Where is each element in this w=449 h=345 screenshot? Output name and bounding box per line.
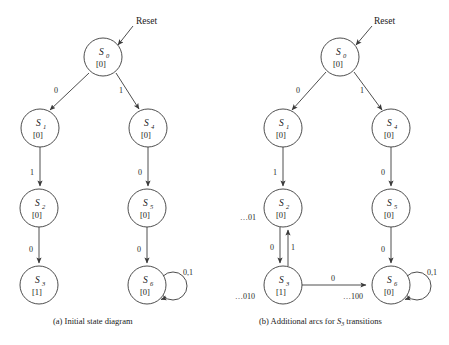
state-name-b-S2: S <box>279 198 284 208</box>
self-loop-label-a-S6: 0,1 <box>183 268 193 277</box>
transition-b-S4-S5: 0 <box>381 147 391 186</box>
transition-a-S0-S4: 1 <box>116 73 139 109</box>
caption-panel-b-prefix: (b) Additional arcs for <box>259 316 337 326</box>
transition-label-a-S5-S6: 0 <box>137 245 141 254</box>
sequence-label-b-S3: …010 <box>235 292 255 301</box>
state-node-a-S2[interactable]: S 2 [0] <box>20 189 58 227</box>
state-output-a-S1: [0] <box>33 130 43 140</box>
state-node-b-S3[interactable]: S 3 [1] <box>264 266 302 304</box>
state-output-a-S2: [0] <box>32 210 42 220</box>
self-loop-label-b-S6: 0,1 <box>427 268 437 277</box>
state-output-b-S2: [0] <box>276 210 286 220</box>
transition-a-S1-S2: 1 <box>30 147 40 186</box>
state-output-b-S6: [0] <box>384 287 394 297</box>
transition-label-b-S1-S2: 1 <box>273 168 277 177</box>
panel-a: Reset 0 1 1 0 <box>20 16 193 326</box>
caption-panel-b: (b) Additional arcs for S3 transitions <box>259 316 382 327</box>
state-name-a-S4: S <box>144 118 149 128</box>
state-sub-a-S1: 1 <box>43 123 46 130</box>
transition-a-S5-S6: 0 <box>137 227 147 263</box>
state-name-b-S0: S <box>336 47 341 57</box>
transition-label-a-S1-S2: 1 <box>30 168 34 177</box>
transition-a-S4-S5: 0 <box>138 147 148 186</box>
reset-label-b: Reset <box>374 16 395 26</box>
transition-b-S3-S2: 1 <box>288 230 295 266</box>
state-output-a-S5: [0] <box>140 210 150 220</box>
state-output-a-S4: [0] <box>141 130 151 140</box>
state-node-a-S0[interactable]: S 0 [0] <box>84 38 122 76</box>
state-node-a-S4[interactable]: S 4 [0] <box>129 109 167 147</box>
transition-label-b-S3-S2: 1 <box>291 243 295 252</box>
figure-root: Reset 0 1 1 0 <box>0 0 449 345</box>
transition-a-S2-S3: 0 <box>29 227 39 263</box>
transition-label-a-S0-S1: 0 <box>54 86 58 95</box>
state-output-a-S6: [0] <box>140 287 150 297</box>
state-name-b-S3: S <box>279 275 284 285</box>
state-name-a-S0: S <box>99 47 104 57</box>
state-name-a-S3: S <box>35 275 40 285</box>
transition-label-b-S0-S4: 1 <box>360 86 364 95</box>
transition-label-a-S4-S5: 0 <box>138 168 142 177</box>
state-node-a-S1[interactable]: S 1 [0] <box>21 109 59 147</box>
transition-label-b-S2-S3: 0 <box>270 243 274 252</box>
panel-b: Reset 0 1 1 0 <box>235 16 437 327</box>
caption-panel-b-suffix: transitions <box>344 316 382 326</box>
state-output-a-S0: [0] <box>96 59 106 69</box>
transition-b-S0-S4: 1 <box>354 72 382 110</box>
transition-b-S3-S6: 0 <box>302 274 366 285</box>
transition-label-b-S0-S1: 0 <box>296 86 300 95</box>
state-sub-b-S1: 1 <box>286 123 289 130</box>
state-name-b-S6: S <box>387 275 392 285</box>
state-node-b-S1[interactable]: S 1 [0] <box>264 109 302 147</box>
reset-label-a: Reset <box>136 16 157 26</box>
transition-b-S1-S2: 1 <box>273 147 283 186</box>
transition-label-b-S3-S6: 0 <box>331 274 335 283</box>
state-output-b-S5: [0] <box>384 210 394 220</box>
reset-arrow-a <box>118 26 133 45</box>
transition-label-b-S5-S6: 0 <box>381 245 385 254</box>
state-output-b-S3: [1] <box>276 287 286 297</box>
transition-a-S0-S1: 0 <box>50 73 89 110</box>
state-name-b-S1: S <box>279 118 284 128</box>
transition-label-a-S0-S4: 1 <box>119 86 123 95</box>
state-node-b-S6[interactable]: S 6 [0] <box>372 266 410 304</box>
state-output-b-S1: [0] <box>276 130 286 140</box>
state-node-a-S6[interactable]: S 6 [0] <box>128 266 166 304</box>
sequence-label-b-S6: …100 <box>343 292 363 301</box>
state-node-b-S5[interactable]: S 5 [0] <box>372 189 410 227</box>
state-name-a-S1: S <box>36 118 41 128</box>
state-output-b-S4: [0] <box>384 130 394 140</box>
state-name-a-S5: S <box>143 198 148 208</box>
reset-arrow-b <box>356 26 372 45</box>
state-node-b-S0[interactable]: S 0 [0] <box>321 38 359 76</box>
state-name-a-S2: S <box>35 198 40 208</box>
state-node-a-S5[interactable]: S 5 [0] <box>128 189 166 227</box>
state-name-b-S4: S <box>387 118 392 128</box>
state-diagram-figure: Reset 0 1 1 0 <box>0 0 449 345</box>
state-node-a-S3[interactable]: S 3 [1] <box>20 266 58 304</box>
state-name-b-S5: S <box>387 198 392 208</box>
transition-label-b-S4-S5: 0 <box>381 168 385 177</box>
transition-b-S0-S1: 0 <box>292 72 326 110</box>
state-node-b-S2[interactable]: S 2 [0] <box>264 189 302 227</box>
state-name-a-S6: S <box>143 275 148 285</box>
state-output-b-S0: [0] <box>333 59 343 69</box>
transition-label-a-S2-S3: 0 <box>29 245 33 254</box>
state-node-b-S4[interactable]: S 4 [0] <box>372 109 410 147</box>
transition-b-S5-S6: 0 <box>381 227 391 263</box>
sequence-label-b-S2: …01 <box>240 213 256 222</box>
caption-panel-a: (a) Initial state diagram <box>53 316 133 326</box>
transition-b-S2-S3: 0 <box>270 227 280 263</box>
state-output-a-S3: [1] <box>32 287 42 297</box>
